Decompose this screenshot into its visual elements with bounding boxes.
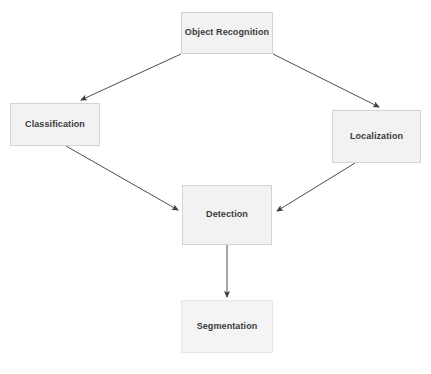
node-segmentation-label: Segmentation [197,322,258,332]
diagram-canvas: Object Recognition Classification Locali… [0,0,431,374]
node-classification[interactable]: Classification [10,103,100,146]
edge-object-recognition-to-localization [273,54,379,107]
edge-object-recognition-to-classification [81,54,181,100]
edge-localization-to-detection [277,163,355,211]
node-localization[interactable]: Localization [332,110,421,163]
node-segmentation[interactable]: Segmentation [181,300,273,353]
node-object-recognition-label: Object Recognition [185,28,269,38]
node-detection[interactable]: Detection [182,185,272,245]
node-object-recognition[interactable]: Object Recognition [181,12,273,54]
node-detection-label: Detection [206,210,248,220]
node-classification-label: Classification [25,120,85,130]
node-localization-label: Localization [350,132,403,142]
edge-classification-to-detection [66,146,178,210]
